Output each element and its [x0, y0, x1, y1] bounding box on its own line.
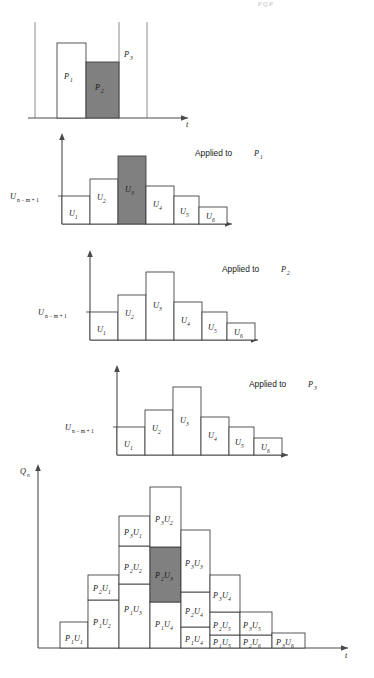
p3-title-prefix: Applied to — [249, 379, 287, 389]
sum-y-label-sub: n — [27, 472, 30, 478]
applied-to-p2-panel: U n − m + 1 U 1 U 2 U 3 U 4 U 5 U 6 Appl… — [38, 250, 290, 343]
p1-bar-u6-sub: 6 — [212, 217, 215, 223]
sum-cell-p2u4-us: 4 — [200, 612, 203, 618]
applied-to-p3-panel: U n − m + 1 U 1 U 2 U 3 U 4 U 5 U 6 Appl… — [65, 365, 317, 458]
p3-y-label-base: U — [65, 423, 72, 432]
sum-cell-p1u4a-p: P — [154, 620, 160, 629]
sum-cell-p1u3 — [119, 584, 150, 648]
p3-y-label-sub: n − m + 1 — [72, 428, 94, 434]
p2-bar-u6-sub: 6 — [240, 333, 243, 339]
pulse-bar-p1-label: P — [63, 72, 69, 81]
p1-title-sub: 1 — [260, 154, 263, 160]
pulse-axis-x-label: t — [186, 120, 189, 129]
sum-cell-p3u5-us: 5 — [258, 626, 261, 632]
pulse-bar-p2-label: P — [94, 83, 100, 92]
summation-panel: Q n t P 1 U 1 P 1 U 2 P 2 U 1 P 1 U 3 P … — [20, 464, 348, 660]
sum-cell-p1u4b-p: P — [184, 635, 190, 644]
p3-bar-u3-sub: 3 — [185, 421, 189, 427]
sum-cell-p2u2-us: 2 — [139, 568, 142, 574]
p1-bar-u2-sub: 2 — [103, 198, 106, 204]
sum-cell-p2u1-p: P — [92, 584, 98, 593]
pulse-bar-p3-sub: 3 — [129, 55, 133, 61]
p3-axis-y-arrow — [114, 365, 120, 372]
sum-cell-p1u1-p: P — [64, 634, 70, 643]
p2-bar-u3-sub: 3 — [158, 306, 162, 312]
sum-cell-p1u2-p: P — [92, 618, 98, 627]
pulse-bar-p3-label: P — [123, 50, 129, 59]
sum-cell-p1u5-us: 5 — [228, 643, 231, 649]
p3-bar-u5-sub: 5 — [241, 443, 244, 449]
p2-axis-y-arrow — [87, 250, 93, 257]
p1-y-label-sub: n − m + 1 — [17, 197, 39, 203]
p3-bar-u1-sub: 1 — [130, 445, 133, 451]
pulse-bar-p1-sub: 1 — [70, 77, 73, 83]
sum-cell-p2u1-us: 1 — [108, 589, 111, 595]
figure-root: P Q P t P 1 P 2 P 3 U n − m + 1 — [0, 0, 374, 678]
p2-title-base: P — [280, 265, 286, 274]
sum-cell-p3u1-us: 1 — [139, 533, 142, 539]
p2-y-label-sub: n − m + 1 — [45, 313, 67, 319]
p3-title-base: P — [307, 380, 313, 389]
p1-bar-u3-sub: 3 — [130, 190, 134, 196]
sum-cell-p2u6-us: 6 — [258, 643, 261, 649]
p1-title-base: P — [253, 149, 259, 158]
sum-y-label-base: Q — [20, 467, 26, 476]
p2-bar-u5 — [202, 312, 227, 340]
p2-bar-u2-sub: 2 — [131, 314, 134, 320]
sum-cell-p1u3-us: 3 — [138, 610, 142, 616]
sum-cell-p2u5-p: P — [212, 621, 218, 630]
sum-cell-p1u4a-us: 4 — [170, 625, 173, 631]
sum-axis-y-arrow — [35, 464, 41, 471]
sum-cell-p3u4-us: 4 — [228, 596, 231, 602]
sum-axis-x-arrow — [341, 645, 348, 651]
sum-axis-x-label: t — [345, 651, 348, 660]
pulse-input-panel: t P 1 P 2 P 3 — [28, 22, 189, 129]
sum-cell-p2u6-p: P — [242, 638, 248, 647]
sum-cell-p2u5-us: 5 — [228, 626, 231, 632]
p1-bar-u4-sub: 4 — [159, 205, 162, 211]
p3-bar-u4-sub: 4 — [214, 436, 217, 442]
sum-cell-p1u1-us: 1 — [80, 639, 83, 645]
sum-cell-p2u4-p: P — [184, 607, 190, 616]
sum-cell-p3u6-us: 6 — [291, 643, 294, 649]
p2-title-sub: 2 — [287, 270, 290, 276]
sum-cell-p3u5-p: P — [242, 621, 248, 630]
p3-bar-u2-sub: 2 — [158, 429, 161, 435]
sum-cell-p1u3-p: P — [123, 605, 129, 614]
p2-bar-u1-sub: 1 — [103, 330, 106, 336]
cropped-header-text: P Q P — [257, 1, 273, 7]
sum-cell-p3u2-us: 2 — [170, 520, 173, 526]
cropped-header: P Q P — [257, 1, 273, 7]
p1-bar-u5-sub: 5 — [186, 212, 189, 218]
sum-cell-p3u3-p: P — [184, 559, 190, 568]
p3-bar-u6-sub: 6 — [267, 448, 270, 454]
sum-cell-p2u3-us: 3 — [169, 576, 173, 582]
sum-cell-p1u5-p: P — [212, 638, 218, 647]
p2-y-label-base: U — [38, 308, 45, 317]
p1-title-prefix: Applied to — [195, 148, 233, 158]
p1-axis-y-arrow — [59, 133, 65, 140]
sum-cell-p2u2-p: P — [123, 563, 129, 572]
p3-bar-u5 — [229, 427, 254, 455]
applied-to-p1-panel: U n − m + 1 U 1 U 2 U 3 U 4 U 5 U 6 Appl… — [10, 133, 263, 227]
sum-cell-p3u6-p: P — [275, 638, 281, 647]
sum-cell-p1u2-us: 2 — [108, 623, 111, 629]
p1-bar-u1-sub: 1 — [75, 214, 78, 220]
sum-cell-p3u3-us: 3 — [199, 564, 203, 570]
p1-bar-u5 — [174, 196, 199, 224]
sum-cell-p2u3-p: P — [154, 571, 160, 580]
sum-cell-p3u4-p: P — [212, 591, 218, 600]
pulse-bar-p2-sub: 2 — [101, 88, 104, 94]
p1-y-label-base: U — [10, 192, 17, 201]
p2-bar-u4-sub: 4 — [187, 321, 190, 327]
sum-cell-p3u1-p: P — [123, 528, 129, 537]
sum-cell-p3u2-p: P — [154, 515, 160, 524]
p2-bar-u5-sub: 5 — [214, 328, 217, 334]
p2-title-prefix: Applied to — [222, 264, 260, 274]
p3-title-sub: 3 — [313, 385, 317, 391]
sum-cell-p1u4b-us: 4 — [200, 640, 203, 646]
